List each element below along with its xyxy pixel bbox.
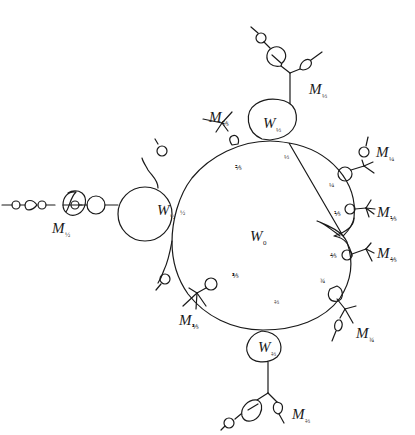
- fraction-third: ⅓: [284, 153, 289, 161]
- label-m-quarter: M: [375, 144, 390, 160]
- fraction-twothirds: ⅔: [274, 298, 279, 306]
- antenna: [155, 139, 158, 144]
- label-m-threequarters: M: [355, 325, 370, 341]
- label-m-half-sub: ½: [65, 231, 70, 239]
- label-w-twothirds: W: [258, 339, 272, 355]
- limb-m-fourfifths: [342, 243, 374, 261]
- label-m-fifth-sub: ⅕: [390, 215, 397, 223]
- fraction-half: ½: [180, 209, 185, 217]
- label-m-fifth: M: [376, 204, 391, 220]
- label-m-twofifths-sub: ⅖: [222, 120, 229, 128]
- limb-m-threequarters: [328, 286, 356, 341]
- fraction-twofifths: ⅖: [235, 164, 242, 172]
- antenna: [156, 284, 161, 290]
- label-w0-sub: 0: [263, 239, 267, 247]
- label-m-third: M: [308, 81, 323, 97]
- fraction-quarter: ¼: [329, 181, 334, 189]
- label-w-third: W: [263, 115, 277, 131]
- label-w-half: W: [157, 202, 171, 218]
- minibulb-top-left: [157, 146, 167, 156]
- mandelbrot-schematic: W 0 W ½ W ⅓ W ⅔ M ½ M ⅓ M ⅔ M ¼ M ¾ M ⅕ …: [0, 0, 415, 435]
- limb-m-twothirds: [221, 362, 284, 430]
- main-cardioid: [172, 141, 354, 330]
- label-m-third-sub: ⅓: [322, 92, 327, 100]
- fraction-threefifths: ⅗: [232, 272, 239, 280]
- label-w-twothirds-sub: ⅔: [271, 350, 276, 358]
- minibulb-bottom-left: [160, 274, 170, 284]
- label-m-threefifths-sub: ⅗: [192, 323, 199, 331]
- label-m-threefifths: M: [178, 312, 193, 328]
- label-m-quarter-sub: ¼: [389, 155, 394, 163]
- label-m-twothirds-sub: ⅔: [305, 417, 310, 425]
- fraction-fourfifths: ⅘: [330, 252, 337, 260]
- label-w-half-sub: ½: [170, 213, 175, 221]
- fraction-fifth: ⅕: [334, 210, 341, 218]
- limb-w-half-top: [142, 158, 158, 188]
- limb-m-half: [2, 191, 118, 216]
- label-m-twothirds: M: [291, 406, 306, 422]
- limb-m-fifth: [345, 200, 375, 217]
- label-m-half: M: [51, 220, 66, 236]
- label-w0: W: [250, 228, 264, 244]
- fraction-threequarters: ¾: [320, 277, 325, 285]
- label-w-third-sub: ⅓: [276, 126, 281, 134]
- limb-m-quarter: [338, 137, 374, 181]
- label-m-fourfifths-sub: ⅘: [390, 256, 397, 264]
- label-m-fourfifths: M: [376, 245, 391, 261]
- label-m-twofifths: M: [208, 109, 223, 125]
- label-m-threequarters-sub: ¾: [369, 336, 374, 344]
